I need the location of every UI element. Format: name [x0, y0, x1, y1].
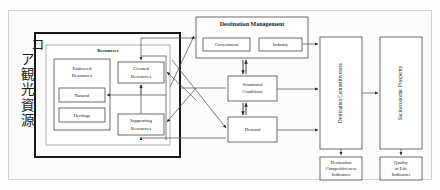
created-resources-label-line2: Resources — [131, 74, 152, 79]
situational-conditions-label-line2: Conditions — [242, 89, 262, 94]
dc-indicators-label-line1: Destination — [330, 160, 352, 165]
supporting-resources-label-line2: Resources — [131, 126, 152, 131]
supporting-resources-label-line1: Supporting — [130, 118, 153, 123]
diagram-canvas: Resources Endowed Resources Natural Heri… — [0, 0, 440, 190]
created-resources-label-line1: Created — [133, 66, 149, 71]
socioeconomic-prosperity-label: Socioeconomic Prosperity — [397, 65, 403, 120]
industry-label: Industry — [273, 42, 289, 47]
demand-label: Demand — [245, 127, 261, 132]
figure-root: Resources Endowed Resources Natural Heri… — [0, 0, 440, 190]
natural-label: Natural — [75, 93, 91, 98]
government-label: Government — [215, 42, 239, 47]
destination-management-title: Destination Management — [220, 21, 285, 27]
qol-indicators-label-line2: of Life — [395, 166, 408, 171]
endowed-resources-label-line2: Resources — [72, 73, 93, 78]
heritage-label: Heritage — [73, 113, 91, 118]
dc-indicators-label-line3: Indicators — [332, 172, 351, 177]
supporting-resources-box — [118, 114, 164, 135]
endowed-resources-label-line1: Endowed — [73, 66, 92, 71]
created-resources-box — [118, 62, 164, 83]
resources-label: Resources — [97, 48, 119, 53]
qol-indicators-label-line3: Indicators — [392, 172, 411, 177]
situational-conditions-label-line1: Situational — [243, 82, 264, 87]
destination-competitiveness-label: Destination Competitiveness — [337, 63, 343, 123]
core-tourism-resources-vertical-label: コ ア 観 光 資 源 — [14, 22, 40, 143]
qol-indicators-label-line1: Quality — [394, 160, 408, 165]
dc-indicators-label-line2: Competitiveness — [326, 166, 357, 171]
